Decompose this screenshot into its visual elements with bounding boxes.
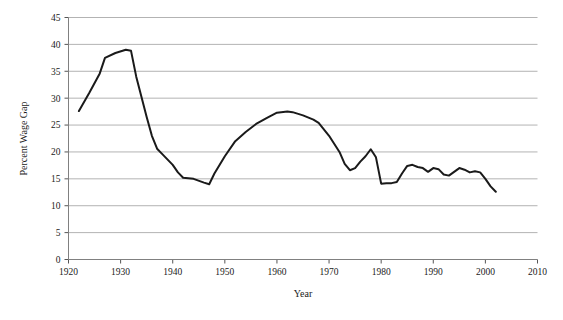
x-tick-label: 1990 (424, 267, 443, 277)
y-tick-label: 20 (51, 147, 61, 157)
x-tick-label: 1940 (163, 267, 182, 277)
x-axis-ticks (69, 260, 538, 264)
y-tick-label: 5 (56, 228, 61, 238)
x-tick-label: 1930 (111, 267, 130, 277)
x-tick-label: 1980 (372, 267, 391, 277)
x-tick-label: 1960 (267, 267, 286, 277)
y-tick-label: 40 (51, 40, 61, 50)
x-tick-label: 2010 (528, 267, 547, 277)
x-tick-label: 1950 (215, 267, 234, 277)
y-tick-label: 0 (56, 255, 61, 265)
wage-gap-line-chart: 051015202530354045 192019301940195019601… (0, 0, 563, 320)
y-tick-label: 25 (51, 120, 61, 130)
y-tick-label: 45 (51, 13, 61, 23)
y-tick-label: 35 (51, 67, 61, 77)
y-tick-label: 10 (51, 201, 61, 211)
y-tick-label: 15 (51, 174, 61, 184)
chart-canvas: 051015202530354045 192019301940195019601… (0, 0, 563, 320)
x-axis-tick-labels: 1920193019401950196019701980199020002010 (59, 267, 547, 277)
y-axis-title: Percent Wage Gap (18, 102, 29, 176)
x-tick-label: 1970 (320, 267, 339, 277)
x-axis-title: Year (294, 288, 313, 299)
y-axis-tick-labels: 051015202530354045 (51, 13, 61, 265)
x-tick-label: 1920 (59, 267, 78, 277)
y-tick-label: 30 (51, 94, 61, 104)
x-tick-label: 2000 (476, 267, 495, 277)
gridlines (69, 18, 538, 233)
y-axis-ticks (65, 18, 69, 260)
